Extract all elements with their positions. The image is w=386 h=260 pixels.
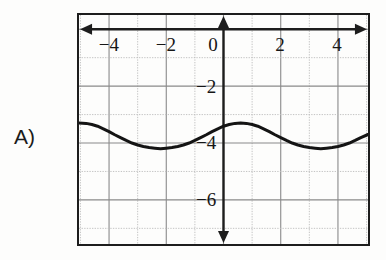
x-tick-label: −2	[156, 35, 176, 54]
x-tick-label: −4	[99, 35, 119, 54]
tick-label-layer: −4−2024−2−4−6	[79, 15, 368, 244]
problem-label: A)	[14, 126, 35, 147]
y-tick-label: −4	[196, 133, 216, 152]
x-tick-label: 2	[275, 35, 285, 54]
graph-frame: −4−2024−2−4−6	[77, 13, 370, 246]
y-tick-label: −6	[196, 190, 216, 209]
x-tick-label: 0	[208, 35, 218, 54]
x-tick-label: 4	[332, 35, 342, 54]
y-tick-label: −2	[196, 76, 216, 95]
